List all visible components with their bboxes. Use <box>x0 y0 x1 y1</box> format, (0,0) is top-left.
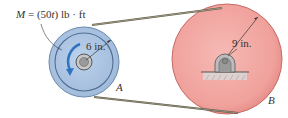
moment-label: M = (50t) lb · ft <box>16 9 85 20</box>
pulley-b-label: B <box>268 95 275 106</box>
moment-expr: = (50 <box>25 8 51 20</box>
pulley-a-label: A <box>116 82 123 93</box>
pulley-b <box>172 4 282 114</box>
pulley-a <box>41 24 119 97</box>
radius-a-label: 6 in. <box>86 41 106 52</box>
moment-unit: ) lb · ft <box>55 8 86 20</box>
moment-symbol: M <box>16 8 25 20</box>
pulley-belt-diagram: M = (50t) lb · ft 6 in. A 9 in. B <box>0 0 288 118</box>
radius-b-label: 9 in. <box>232 38 252 49</box>
